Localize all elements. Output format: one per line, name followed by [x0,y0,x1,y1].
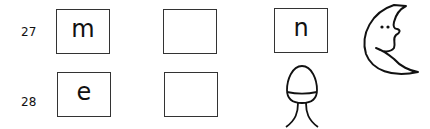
letter-box: n [274,8,328,53]
egg-icon [284,64,324,129]
letter-box: e [57,72,111,117]
row-number-27: 27 [21,25,36,39]
blank-letter-box[interactable] [164,72,218,117]
moon-icon [352,2,422,78]
blank-letter-box[interactable] [163,9,217,54]
letter-box: m [56,9,110,54]
row-number-28: 28 [21,95,36,109]
